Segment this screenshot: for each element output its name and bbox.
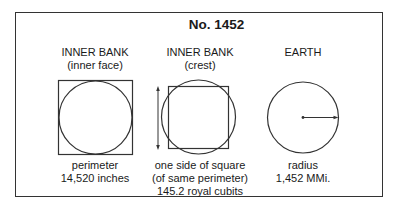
panel-2-caption-line: one side of square — [140, 159, 260, 172]
crest-square — [169, 87, 229, 149]
panel-3-caption-line: 1,452 MMi. — [248, 172, 358, 185]
inner-face-figure — [59, 81, 133, 155]
arrow-head-down-icon — [156, 145, 160, 150]
panel-2-caption-line: 145.2 royal cubits — [140, 185, 260, 198]
panel-3-caption: radius 1,452 MMi. — [248, 159, 358, 185]
earth-figure — [268, 82, 339, 153]
panel-2-caption: one side of square (of same perimeter) 1… — [140, 159, 260, 198]
panel-1-caption-line: perimeter — [40, 159, 150, 172]
arrow-head-right-icon — [334, 116, 339, 120]
crest-circle — [162, 80, 236, 154]
crest-figure — [156, 80, 235, 154]
inner-face-circle — [59, 81, 132, 154]
panel-1-caption-line: 14,520 inches — [40, 172, 150, 185]
panel-1-caption: perimeter 14,520 inches — [40, 159, 150, 185]
panel-2-caption-line: (of same perimeter) — [140, 172, 260, 185]
arrow-head-up-icon — [156, 86, 160, 91]
panel-3-caption-line: radius — [248, 159, 358, 172]
